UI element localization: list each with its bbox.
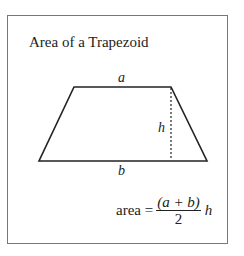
- label-h: h: [158, 120, 165, 136]
- trapezoid-shape: [39, 87, 207, 161]
- formula-lhs: area =: [116, 202, 153, 219]
- formula-numerator: (a + b): [156, 194, 201, 211]
- formula-fraction: (a + b) 2: [156, 194, 201, 227]
- label-b: b: [118, 163, 125, 179]
- label-a: a: [118, 70, 125, 86]
- area-formula: area = (a + b) 2 h: [116, 194, 212, 227]
- formula-multiplier: h: [205, 202, 213, 219]
- formula-denominator: 2: [175, 211, 183, 227]
